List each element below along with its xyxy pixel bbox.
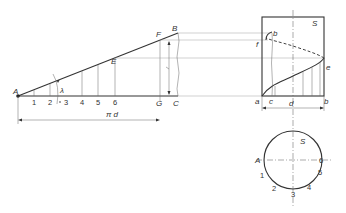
circle-division-label: 4 xyxy=(307,183,311,192)
arrow-head xyxy=(168,91,171,95)
circle-division-label: 6 xyxy=(319,156,323,165)
label-section-s: S xyxy=(312,19,318,28)
division-verticals xyxy=(34,40,160,101)
label-diameter-d: d xyxy=(289,99,294,108)
label-pi-d: π d xyxy=(106,110,119,119)
arrow-head xyxy=(168,41,171,45)
helix-hidden-curve xyxy=(266,38,324,58)
tick-mark xyxy=(166,67,169,69)
division-label: 2 xyxy=(48,98,52,107)
circle-division-label: 1 xyxy=(260,171,264,180)
label-point-f: F xyxy=(156,30,162,39)
label-circle-a: A xyxy=(254,156,260,165)
label-point-b-lower-right: b xyxy=(324,97,329,106)
angle-arc xyxy=(53,74,58,104)
label-point-b: B xyxy=(172,24,178,33)
label-point-a: A xyxy=(12,87,18,96)
arrow-head xyxy=(18,119,22,122)
circle-division-label: 3 xyxy=(291,190,295,199)
label-circle-s: S xyxy=(300,137,306,146)
division-label: 3 xyxy=(64,98,68,107)
circle-division-label: 5 xyxy=(318,168,322,177)
arrow-head xyxy=(57,80,60,83)
label-point-e: E xyxy=(111,57,117,66)
label-point-c: C xyxy=(173,99,179,108)
break-line xyxy=(177,33,179,96)
division-label: 4 xyxy=(80,98,84,107)
arrow-head xyxy=(320,107,324,110)
division-label: 1 xyxy=(32,98,36,107)
arrow-head xyxy=(156,119,160,122)
label-point-e-lower: e xyxy=(326,63,331,72)
angle-dot xyxy=(59,101,61,103)
label-point-b-lower: b xyxy=(273,29,278,38)
arrow-head xyxy=(262,107,266,110)
division-label: 5 xyxy=(96,98,100,107)
circle-division-label: 2 xyxy=(272,184,276,193)
label-point-a-lower: a xyxy=(255,97,260,106)
label-point-f-lower: f xyxy=(256,40,259,49)
helix-diagram: A λ E F B G C 1 2 3 4 5 6 π d S b f e a … xyxy=(0,0,346,213)
label-point-g: G xyxy=(156,99,162,108)
division-label: 6 xyxy=(113,98,117,107)
label-angle-lambda: λ xyxy=(59,86,64,95)
label-point-c-lower: c xyxy=(269,97,273,106)
